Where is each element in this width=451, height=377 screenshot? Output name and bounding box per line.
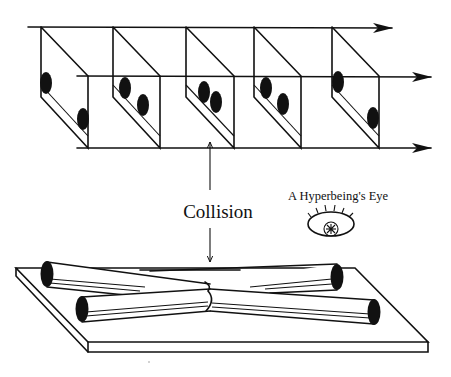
slab-4	[254, 27, 301, 148]
particle-dot	[260, 77, 272, 99]
particle-dot	[367, 107, 379, 129]
speck	[148, 361, 150, 363]
world-tubes	[41, 261, 381, 325]
cylinder-end-cap	[331, 264, 344, 290]
particle-dot	[277, 93, 289, 115]
top-time-arrow	[28, 27, 392, 28]
collision-diagram: Collision A Hyperbeing's Eye	[0, 0, 451, 377]
particle-dot	[137, 94, 149, 116]
eye-icon	[308, 205, 354, 236]
cylinder-end-cap	[368, 299, 381, 325]
particle-dot	[210, 91, 222, 113]
slab-1	[40, 27, 89, 148]
particle-dot	[119, 77, 131, 99]
particle-dot	[77, 108, 89, 130]
cylinder-end-cap	[76, 296, 89, 322]
particle-dot	[198, 81, 210, 103]
particle-dot	[332, 71, 344, 93]
collision-label: Collision	[183, 201, 253, 222]
eye-label: A Hyperbeing's Eye	[288, 189, 389, 203]
cylinder-lower-left	[76, 289, 211, 322]
cylinder-end-cap	[41, 261, 54, 287]
cylinder-lower-right	[210, 289, 381, 325]
slab-2	[113, 27, 160, 148]
particle-dot	[40, 72, 52, 94]
slab-3-collision	[186, 27, 234, 148]
slab-5	[332, 27, 379, 148]
